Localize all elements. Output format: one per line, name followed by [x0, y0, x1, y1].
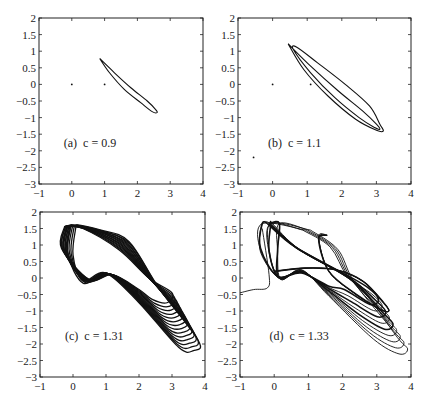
attractor-curve	[259, 221, 400, 341]
x-tick-label: 3	[169, 380, 175, 392]
y-tick-label: −1	[25, 305, 37, 317]
x-tick-label: 4	[200, 187, 206, 199]
x-tick-label: 0	[271, 380, 277, 392]
y-tick-label: 0.5	[223, 256, 237, 268]
y-tick-label: 1.5	[23, 223, 37, 235]
y-tick-label: −2.5	[17, 355, 37, 367]
y-tick-label: −2.5	[215, 161, 235, 173]
y-tick-label: 2	[230, 12, 236, 24]
y-tick-label: −1.5	[17, 322, 37, 334]
y-tick-label: 0.5	[23, 256, 37, 268]
y-tick-label: −0.5	[215, 95, 235, 107]
x-tick-label: 0	[270, 187, 276, 199]
x-tick-label: 3	[374, 187, 380, 199]
fixed-point-marker	[104, 84, 106, 86]
x-tick-label: 1	[304, 187, 310, 199]
y-tick-label: −1	[223, 112, 235, 124]
panel-label: (d) c = 1.33	[270, 329, 329, 343]
x-tick-label: 1	[102, 187, 108, 199]
attractor-curve	[71, 225, 196, 345]
trajectory-layer	[71, 59, 157, 113]
y-tick-label: −2	[225, 338, 237, 350]
y-tick-label: −0.5	[217, 289, 237, 301]
figure-canvas: −10123421.510.50−0.5−1−1.5−2−2.5−3(a) c …	[0, 0, 423, 405]
y-tick-label: −3	[225, 371, 237, 383]
y-tick-label: −2.5	[217, 355, 237, 367]
y-tick-label: 1	[31, 45, 37, 57]
y-tick-label: −1.5	[217, 322, 237, 334]
y-tick-label: 1.5	[221, 29, 235, 41]
y-tick-label: −3	[25, 371, 37, 383]
y-tick-label: −1	[225, 305, 237, 317]
y-tick-label: 2	[32, 206, 38, 218]
panel-d: −10123421.510.50−0.5−1−1.5−2−2.5−3(d) c …	[217, 206, 414, 392]
panel-c: −10123421.510.50−0.5−1−1.5−2−2.5−3(c) c …	[17, 206, 208, 392]
orbit-curve	[100, 59, 158, 113]
x-tick-label: 4	[408, 187, 414, 199]
y-tick-label: −2	[223, 145, 235, 157]
y-tick-label: 0	[232, 272, 238, 284]
x-tick-label: 2	[340, 380, 346, 392]
y-tick-label: 1.5	[22, 29, 36, 41]
y-tick-label: −0.5	[16, 95, 36, 107]
panel-a: −10123421.510.50−0.5−1−1.5−2−2.5−3(a) c …	[16, 12, 206, 199]
x-tick-label: 4	[408, 380, 414, 392]
panel-label: (b) c = 1.1	[268, 136, 321, 150]
fixed-point-marker	[310, 84, 312, 86]
y-tick-label: 2	[232, 206, 238, 218]
x-tick-label: 0	[70, 380, 76, 392]
y-tick-label: 0	[31, 78, 37, 90]
y-tick-label: −3	[223, 178, 235, 190]
y-tick-label: 1	[32, 239, 38, 251]
fixed-point-marker	[272, 84, 274, 86]
y-tick-label: −1.5	[215, 128, 235, 140]
fixed-point-marker	[71, 84, 73, 86]
y-tick-label: −2.5	[16, 161, 36, 173]
y-tick-label: −2	[24, 145, 36, 157]
y-tick-label: 1.5	[223, 223, 237, 235]
y-tick-label: 2	[31, 12, 37, 24]
y-tick-label: 0	[230, 78, 236, 90]
orbit-curve	[288, 44, 383, 132]
attractor-curve	[269, 222, 393, 330]
plot-frame	[238, 18, 411, 184]
y-tick-label: 0	[32, 272, 38, 284]
panel-label: (c) c = 1.31	[65, 329, 123, 343]
x-tick-label: 1	[103, 380, 109, 392]
plot-frame	[39, 18, 203, 184]
y-tick-label: −1	[24, 112, 36, 124]
x-tick-label: 2	[135, 187, 141, 199]
x-tick-label: 4	[202, 380, 208, 392]
y-tick-label: −2	[25, 338, 37, 350]
panel-label: (a) c = 0.9	[64, 136, 116, 150]
x-tick-label: 3	[374, 380, 380, 392]
y-tick-label: 0.5	[22, 62, 36, 74]
x-tick-label: 1	[306, 380, 312, 392]
y-tick-label: 0.5	[221, 62, 235, 74]
y-tick-label: 1	[232, 239, 238, 251]
panel-b: −10123421.510.50−0.5−1−1.5−2−2.5−3(b) c …	[215, 12, 414, 199]
plot-frame	[240, 212, 411, 377]
y-tick-label: −3	[24, 178, 36, 190]
x-tick-label: 2	[136, 380, 142, 392]
y-tick-label: −0.5	[17, 289, 37, 301]
y-tick-label: 1	[230, 45, 236, 57]
fixed-point-marker	[253, 157, 255, 159]
y-tick-label: −1.5	[16, 128, 36, 140]
x-tick-label: 3	[167, 187, 173, 199]
x-tick-label: 0	[69, 187, 75, 199]
x-tick-label: 2	[339, 187, 345, 199]
